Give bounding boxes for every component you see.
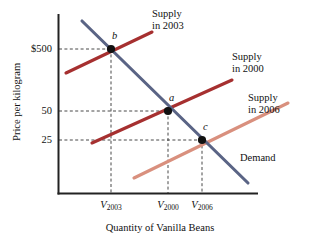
x-tick-v2006-subscript: 2006: [198, 203, 213, 212]
point-label-c: c: [203, 121, 208, 133]
demand-curve: [82, 21, 248, 183]
supply-2006-label: Supply in 2006: [248, 92, 280, 116]
point-label-b: b: [112, 30, 117, 42]
supply-2006-label-line1: Supply: [248, 92, 280, 104]
x-tick-v2003-subscript: 2003: [107, 203, 122, 212]
supply-2003-label-line1: Supply: [152, 8, 184, 20]
supply-2003-label: Supply in 2003: [152, 8, 184, 32]
x-tick-v2006-letter: V: [191, 199, 197, 210]
supply-2000-label: Supply in 2000: [232, 51, 264, 75]
supply-2000-curve: [92, 80, 232, 143]
supply-2000-label-line1: Supply: [232, 51, 264, 63]
supply-2003-label-line2: in 2003: [152, 20, 184, 32]
point-marker-a: [164, 107, 172, 115]
x-tick-label-v2003: V2003: [84, 199, 138, 211]
guide-lines: [59, 49, 202, 194]
x-tick-v2000-letter: V: [157, 199, 163, 210]
x-tick-label-v2006: V2006: [175, 199, 229, 211]
point-label-a: a: [169, 92, 174, 104]
x-axis-title: Quantity of Vanilla Beans: [0, 222, 320, 234]
point-marker-b: [107, 45, 115, 53]
y-axis-title: Price per kilogram: [11, 37, 23, 167]
demand-label: Demand: [240, 152, 276, 164]
point-marker-c: [198, 136, 206, 144]
x-tick-v2003-letter: V: [100, 199, 106, 210]
supply-2006-label-line2: in 2006: [248, 104, 280, 116]
supply-2000-label-line2: in 2000: [232, 63, 264, 75]
supply-demand-figure: $500 50 25 V2003 V2000 V2006 Quantity of…: [0, 0, 320, 241]
